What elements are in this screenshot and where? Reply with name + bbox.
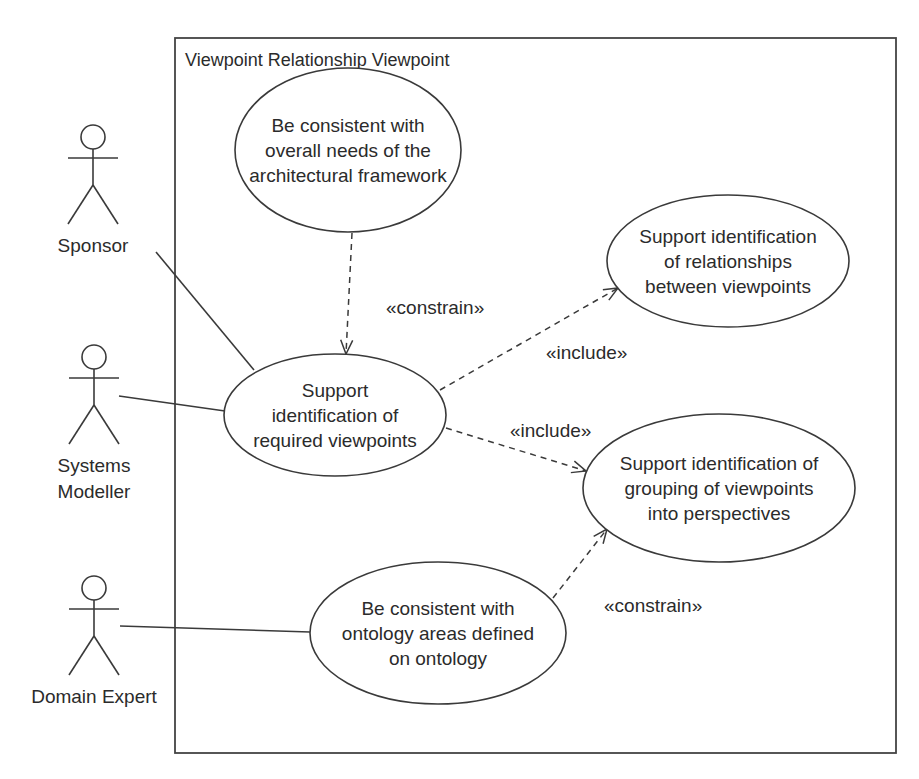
- actor-domain-expert[interactable]: Domain Expert: [31, 576, 157, 707]
- actor-label: Systems: [58, 455, 131, 476]
- use-case-label-line: on ontology: [389, 648, 488, 669]
- use-case-uc-relationships[interactable]: Support identificationof relationshipsbe…: [607, 195, 849, 327]
- use-case-uc-consistent-framework[interactable]: Be consistent withoverall needs of thear…: [235, 68, 461, 232]
- use-case-uc-required-viewpoints[interactable]: Supportidentification ofrequired viewpoi…: [224, 354, 446, 476]
- dependency-uc-consistent-framework-uc-required-viewpoints: «constrain»: [346, 233, 484, 354]
- stereotype-label: «constrain»: [604, 595, 702, 616]
- association-systems-modeller-uc-required-viewpoints: [119, 396, 225, 411]
- association-sponsor-uc-required-viewpoints: [156, 252, 254, 370]
- use-case-label-line: Support: [302, 380, 369, 401]
- use-case-label-line: into perspectives: [648, 503, 791, 524]
- stereotype-label: «include»: [510, 420, 591, 441]
- use-case-label-line: between viewpoints: [645, 276, 811, 297]
- use-case-label-line: Be consistent with: [271, 115, 424, 136]
- actor-sponsor[interactable]: Sponsor: [58, 125, 129, 256]
- stick-figure-icon: [69, 345, 119, 444]
- use-case-label-line: Be consistent with: [361, 598, 514, 619]
- system-boundary-title: Viewpoint Relationship Viewpoint: [185, 50, 450, 70]
- diagram-canvas: Viewpoint Relationship Viewpoint «constr…: [0, 0, 919, 779]
- use-cases: Be consistent withoverall needs of thear…: [224, 68, 855, 704]
- stick-figure-icon: [68, 125, 118, 224]
- use-case-label-line: required viewpoints: [253, 430, 417, 451]
- actor-systems-modeller[interactable]: SystemsModeller: [58, 345, 132, 502]
- actors: SponsorSystemsModellerDomain Expert: [31, 125, 157, 707]
- use-case-label-line: overall needs of the: [265, 140, 431, 161]
- use-case-label-line: Support identification: [639, 226, 816, 247]
- dependency-arrow: [553, 529, 607, 598]
- use-case-label-line: of relationships: [664, 251, 792, 272]
- actor-label: Sponsor: [58, 235, 129, 256]
- use-case-diagram: Viewpoint Relationship Viewpoint «constr…: [0, 0, 919, 779]
- use-case-label-line: Support identification of: [620, 453, 819, 474]
- use-case-label-line: identification of: [272, 405, 399, 426]
- use-case-uc-grouping[interactable]: Support identification ofgrouping of vie…: [583, 414, 855, 562]
- stereotype-label: «include»: [546, 342, 627, 363]
- stick-figure-icon: [69, 576, 119, 675]
- use-case-label-line: grouping of viewpoints: [624, 478, 813, 499]
- actor-label: Modeller: [58, 481, 132, 502]
- association-domain-expert-uc-ontology-areas: [120, 626, 310, 632]
- stereotype-label: «constrain»: [386, 297, 484, 318]
- actor-label: Domain Expert: [31, 686, 157, 707]
- use-case-uc-ontology-areas[interactable]: Be consistent withontology areas defined…: [310, 562, 566, 704]
- dependency-uc-required-viewpoints-uc-grouping: «include»: [446, 420, 591, 471]
- use-case-label-line: ontology areas defined: [342, 623, 534, 644]
- use-case-label-line: architectural framework: [249, 165, 447, 186]
- dependency-arrow: [346, 233, 352, 354]
